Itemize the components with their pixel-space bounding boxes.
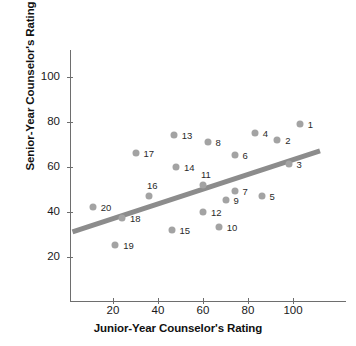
data-point-20[interactable] (89, 204, 96, 211)
x-tick-label-80: 80 (233, 304, 263, 316)
data-point-5[interactable] (258, 192, 265, 199)
data-point-8[interactable] (204, 138, 211, 145)
y-tick-label-60: 60 (32, 160, 60, 172)
data-point-7[interactable] (231, 188, 238, 195)
data-point-3[interactable] (285, 161, 292, 168)
data-point-12[interactable] (200, 208, 207, 215)
y-tick-label-20: 20 (32, 250, 60, 262)
y-tick-60 (67, 167, 73, 168)
plot-area: 20406080100 20406080100 1234567891011121… (0, 0, 356, 346)
data-point-6[interactable] (231, 152, 238, 159)
data-point-2[interactable] (274, 136, 281, 143)
data-point-14[interactable] (173, 163, 180, 170)
data-point-label-9: 9 (234, 195, 239, 206)
data-point-label-13: 13 (182, 130, 193, 141)
x-tick-label-60: 60 (188, 304, 218, 316)
data-point-label-6: 6 (243, 150, 248, 161)
y-tick-label-40: 40 (32, 205, 60, 217)
data-point-19[interactable] (112, 242, 119, 249)
data-point-17[interactable] (132, 150, 139, 157)
data-point-1[interactable] (296, 120, 303, 127)
data-point-label-4: 4 (263, 128, 268, 139)
data-point-label-16: 16 (147, 180, 158, 191)
trend-line (0, 0, 356, 346)
x-tick-label-40: 40 (143, 304, 173, 316)
data-point-16[interactable] (146, 192, 153, 199)
data-point-label-19: 19 (123, 240, 134, 251)
data-point-13[interactable] (170, 132, 177, 139)
data-point-9[interactable] (222, 197, 229, 204)
y-axis-title: Senior-Year Counselor's Rating (24, 0, 36, 186)
data-point-label-15: 15 (180, 225, 191, 236)
y-tick-80 (67, 122, 73, 123)
data-point-label-2: 2 (285, 135, 290, 146)
data-point-15[interactable] (168, 226, 175, 233)
data-point-label-1: 1 (308, 119, 313, 130)
data-point-label-5: 5 (270, 191, 275, 202)
y-tick-20 (67, 257, 73, 258)
y-tick-100 (67, 77, 73, 78)
y-axis-line (70, 50, 71, 301)
data-point-10[interactable] (215, 224, 222, 231)
x-tick-label-20: 20 (98, 304, 128, 316)
data-point-label-7: 7 (243, 186, 248, 197)
data-point-label-14: 14 (184, 162, 195, 173)
y-tick-40 (67, 212, 73, 213)
data-point-18[interactable] (119, 215, 126, 222)
scatter-chart: 20406080100 20406080100 1234567891011121… (0, 0, 356, 346)
x-axis-title: Junior-Year Counselor's Rating (0, 322, 356, 334)
data-point-label-3: 3 (297, 159, 302, 170)
data-point-label-12: 12 (211, 207, 222, 218)
x-tick-label-100: 100 (278, 304, 308, 316)
data-point-11[interactable] (200, 181, 207, 188)
data-point-label-20: 20 (101, 202, 112, 213)
data-point-label-17: 17 (144, 148, 155, 159)
data-point-label-11: 11 (201, 169, 211, 180)
data-point-label-10: 10 (227, 222, 238, 233)
y-tick-label-80: 80 (32, 115, 60, 127)
y-tick-label-100: 100 (32, 70, 60, 82)
data-point-label-8: 8 (216, 137, 221, 148)
data-point-label-18: 18 (130, 213, 141, 224)
x-axis-line (70, 301, 346, 302)
data-point-4[interactable] (251, 129, 258, 136)
